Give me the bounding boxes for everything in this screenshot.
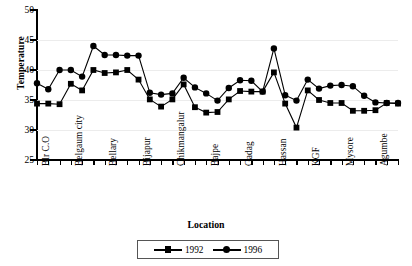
legend-entry-1992: 1992 bbox=[154, 245, 204, 255]
data-point-1992 bbox=[316, 97, 322, 103]
data-point-1996 bbox=[271, 45, 277, 51]
data-point-1992 bbox=[102, 70, 108, 76]
legend-label-1996: 1996 bbox=[244, 245, 263, 255]
data-point-1992 bbox=[294, 125, 300, 131]
data-point-1996 bbox=[316, 85, 322, 91]
data-point-1996 bbox=[305, 76, 311, 82]
data-point-1996 bbox=[372, 99, 378, 105]
data-point-1992 bbox=[282, 101, 288, 107]
data-point-1992 bbox=[79, 88, 85, 94]
data-point-1992 bbox=[91, 67, 97, 73]
data-point-1992 bbox=[124, 67, 130, 73]
data-point-1996 bbox=[101, 52, 107, 58]
data-point-1996 bbox=[56, 67, 62, 73]
data-point-1992 bbox=[327, 100, 333, 106]
data-point-1996 bbox=[248, 78, 254, 84]
temperature-line-chart: Temperature 253035404550 Blr C.OBelgaum … bbox=[0, 0, 412, 266]
data-point-1992 bbox=[34, 101, 40, 107]
data-point-1996 bbox=[226, 85, 232, 91]
chart-legend: 1992 1996 bbox=[137, 240, 279, 259]
circle-marker-icon bbox=[223, 246, 230, 253]
data-point-1992 bbox=[68, 81, 74, 87]
data-point-1996 bbox=[79, 73, 85, 79]
data-point-1996 bbox=[158, 91, 164, 97]
data-point-1992 bbox=[215, 109, 221, 115]
data-point-1992 bbox=[305, 88, 311, 94]
legend-label-1992: 1992 bbox=[185, 245, 204, 255]
data-point-1992 bbox=[158, 104, 164, 110]
data-point-1996 bbox=[180, 75, 186, 81]
data-point-1996 bbox=[45, 86, 51, 92]
data-point-1992 bbox=[45, 101, 51, 107]
data-point-1996 bbox=[361, 93, 367, 99]
legend-line-1996 bbox=[213, 249, 241, 251]
data-point-1996 bbox=[384, 100, 390, 106]
data-point-1992 bbox=[113, 70, 119, 76]
data-point-1996 bbox=[338, 82, 344, 88]
data-point-1996 bbox=[113, 52, 119, 58]
data-point-1996 bbox=[169, 90, 175, 96]
data-point-1996 bbox=[124, 52, 130, 58]
data-point-1992 bbox=[169, 97, 175, 103]
legend-line-1992 bbox=[154, 249, 182, 251]
data-point-1992 bbox=[181, 82, 187, 88]
data-point-1996 bbox=[327, 82, 333, 88]
data-point-1996 bbox=[282, 92, 288, 98]
data-point-1996 bbox=[203, 90, 209, 96]
data-point-1992 bbox=[237, 88, 243, 94]
data-point-1992 bbox=[373, 107, 379, 113]
data-point-1992 bbox=[192, 104, 198, 110]
data-point-1996 bbox=[147, 90, 153, 96]
data-point-1996 bbox=[350, 83, 356, 89]
data-point-1996 bbox=[135, 52, 141, 58]
data-point-1996 bbox=[293, 97, 299, 103]
data-point-1996 bbox=[34, 80, 40, 86]
data-point-1996 bbox=[90, 43, 96, 49]
data-point-1996 bbox=[237, 77, 243, 83]
data-point-1992 bbox=[361, 108, 367, 114]
data-point-1992 bbox=[147, 97, 153, 103]
data-point-1992 bbox=[248, 89, 254, 95]
data-point-1996 bbox=[68, 67, 74, 73]
x-axis-title: Location bbox=[0, 219, 412, 230]
data-point-1992 bbox=[350, 108, 356, 114]
legend-entry-1996: 1996 bbox=[213, 245, 263, 255]
data-point-1996 bbox=[395, 100, 401, 106]
data-point-1996 bbox=[214, 97, 220, 103]
data-point-1992 bbox=[203, 110, 209, 116]
data-point-1992 bbox=[339, 100, 345, 106]
data-point-1996 bbox=[259, 88, 265, 94]
square-marker-icon bbox=[165, 246, 172, 253]
data-point-1992 bbox=[136, 77, 142, 83]
data-point-1992 bbox=[226, 97, 232, 103]
data-point-1992 bbox=[271, 70, 277, 76]
data-point-1992 bbox=[57, 101, 63, 107]
data-point-1996 bbox=[192, 84, 198, 90]
